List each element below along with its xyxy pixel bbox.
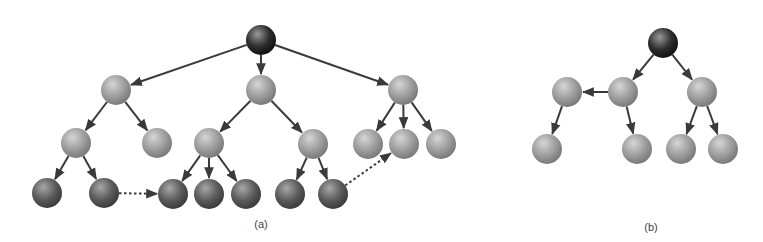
edge-arrow-b-r-p2 [633,55,653,80]
tree-node-a-b3 [194,128,224,158]
tree-node-b-p2 [608,77,638,107]
edge-arrow-a-b4-c7 [319,158,328,179]
edge-arrow-a-a2-b3 [220,101,250,132]
tree-node-b-p3 [687,77,717,107]
tree-node-a-b4 [298,129,328,159]
tree-node-a-c5 [231,179,261,209]
dotted-link-arrow-a-c2-c3 [119,193,157,194]
edge-arrow-a-b3-c3 [182,155,200,181]
tree-node-a-b1 [61,128,91,158]
edge-arrow-b-p3-q3 [687,106,697,134]
tree-node-a-c7 [318,179,348,209]
edge-arrow-a-r-a1 [131,45,247,85]
tree-node-a-c6 [275,179,305,209]
edge-arrow-a-b3-c5 [218,155,237,181]
edge-arrow-a-a2-b4 [271,101,302,133]
edge-arrow-b-p2-q2 [627,107,634,134]
tree-node-a-b2 [142,128,172,158]
tree-node-a-c1 [32,178,62,208]
tree-diagrams-canvas [0,0,763,242]
tree-node-b-q3 [666,134,696,164]
tree-node-a-c2 [89,178,119,208]
edge-arrow-b-p1-q1 [552,106,562,134]
tree-node-b-q4 [708,134,738,164]
diagram-b-caption: (b) [644,221,657,233]
tree-node-a-r [246,25,276,55]
edge-arrow-b-r-p3 [672,55,692,80]
edge-arrow-b-p3-q4 [707,106,717,134]
tree-node-b-q2 [622,134,652,164]
tree-node-b-q1 [532,134,562,164]
tree-node-b-p1 [552,77,582,107]
tree-node-a-a1 [101,75,131,105]
tree-node-a-a2 [246,75,276,105]
edge-arrow-a-a3-b5 [377,103,395,131]
edge-arrow-a-b1-c1 [55,156,69,179]
tree-node-a-b7 [426,129,456,159]
edges-layer [55,45,718,194]
diagram-a-caption: (a) [254,218,267,230]
tree-node-a-b5 [353,129,383,159]
edge-arrow-a-b1-c2 [83,156,96,179]
edge-arrow-a-r-a3 [275,45,388,85]
tree-node-a-c4 [194,179,224,209]
tree-node-a-c3 [158,179,188,209]
edge-arrow-a-a3-b7 [412,102,432,131]
edge-arrow-a-b4-c6 [297,158,307,180]
tree-node-a-a3 [388,75,418,105]
tree-node-a-b6 [389,129,419,159]
edge-arrow-a-a1-b1 [86,102,107,130]
edge-arrow-a-a1-b2 [125,102,147,130]
tree-node-b-r [648,28,678,58]
